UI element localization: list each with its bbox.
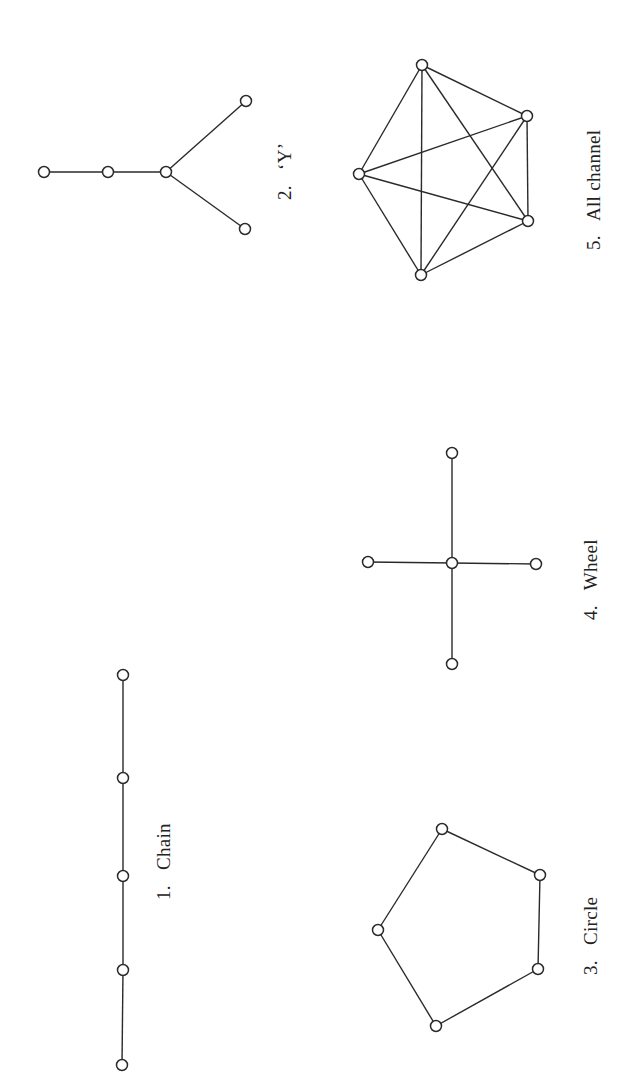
- edge: [378, 829, 442, 930]
- node: [522, 111, 533, 122]
- node: [354, 169, 365, 180]
- network-wheel: [363, 448, 542, 670]
- node: [363, 557, 374, 568]
- edge: [359, 116, 527, 174]
- edge: [538, 875, 540, 969]
- label-y: 2. ‘Y’: [274, 143, 295, 200]
- node: [118, 670, 129, 681]
- node: [447, 558, 458, 569]
- edge: [422, 65, 527, 116]
- node: [437, 824, 448, 835]
- node: [533, 964, 544, 975]
- node: [447, 659, 458, 670]
- label-wheel: 4. Wheel: [580, 539, 601, 620]
- node: [447, 448, 458, 459]
- network-chain: [117, 670, 129, 1071]
- edge: [436, 969, 538, 1026]
- node: [417, 60, 428, 71]
- label-all-channel: 5. All channel: [583, 130, 604, 250]
- node: [431, 1021, 442, 1032]
- edge: [422, 65, 528, 221]
- node: [117, 1060, 128, 1071]
- edge: [359, 65, 422, 174]
- edge: [378, 930, 436, 1026]
- communication-networks-diagram: 1. Chain 2. ‘Y’ 3. Circle 4. Wheel 5. Al…: [0, 0, 634, 1086]
- node: [416, 270, 427, 281]
- label-circle: 3. Circle: [580, 897, 601, 975]
- node: [39, 167, 50, 178]
- node: [523, 216, 534, 227]
- node: [241, 96, 252, 107]
- edge: [166, 172, 245, 229]
- node: [373, 925, 384, 936]
- node: [103, 167, 114, 178]
- node: [240, 224, 251, 235]
- edge: [368, 562, 452, 563]
- network-all-channel: [354, 60, 534, 281]
- node: [161, 167, 172, 178]
- edge: [527, 116, 528, 221]
- node: [118, 871, 129, 882]
- edge: [359, 174, 528, 221]
- node: [118, 773, 129, 784]
- node: [118, 965, 129, 976]
- node: [535, 870, 546, 881]
- network-y: [39, 96, 252, 235]
- node: [531, 559, 542, 570]
- edge: [421, 65, 422, 275]
- edge: [421, 221, 528, 275]
- label-chain: 1. Chain: [153, 823, 174, 900]
- edge: [452, 563, 536, 564]
- edge: [442, 829, 540, 875]
- network-circle: [373, 824, 546, 1032]
- edge: [166, 101, 246, 172]
- edge: [122, 970, 123, 1065]
